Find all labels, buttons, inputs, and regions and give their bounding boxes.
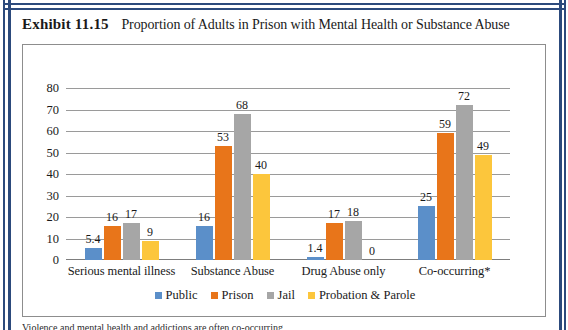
bar-slot: 40: [253, 88, 270, 260]
category-label: Substance Abuse: [177, 264, 288, 279]
y-axis-tick-label: 10: [47, 232, 60, 245]
page-rule-right-inner: [564, 0, 566, 330]
bar-group: 5.416179: [66, 88, 177, 260]
category-label: Drug Abuse only: [288, 264, 399, 279]
bar[interactable]: [215, 146, 232, 260]
bar-group: 16536840: [177, 88, 288, 260]
legend-swatch-icon: [308, 292, 315, 299]
legend-swatch-icon: [267, 292, 274, 299]
legend-label: Public: [166, 288, 198, 303]
category-label: Serious mental illness: [66, 264, 177, 279]
y-axis-tick-label: 60: [47, 125, 60, 138]
bar-value-label: 16: [198, 211, 210, 223]
bar[interactable]: [142, 241, 159, 260]
bar[interactable]: [418, 206, 435, 260]
y-axis-tick-label: 80: [47, 82, 60, 95]
page-rule-top-outer: [3, 3, 566, 5]
chart-plot-area: 80706050403020100 5.416179165368401.4171…: [66, 88, 510, 260]
bar[interactable]: [85, 248, 102, 260]
bar[interactable]: [475, 155, 492, 260]
bar[interactable]: [196, 226, 213, 260]
y-axis-tick-label: 30: [47, 189, 60, 202]
y-axis-tick-label: 40: [47, 168, 60, 181]
bar-value-label: 17: [125, 208, 137, 220]
chart-legend: PublicPrisonJailProbation & Parole: [23, 288, 547, 303]
bar-value-label: 25: [420, 191, 432, 203]
bar-slot: 68: [234, 88, 251, 260]
bar[interactable]: [326, 223, 343, 260]
bar-value-label: 59: [439, 118, 451, 130]
bar[interactable]: [456, 105, 473, 260]
y-axis-tick-label: 50: [47, 146, 60, 159]
bar-slot: 25: [418, 88, 435, 260]
legend-item[interactable]: Jail: [267, 288, 295, 303]
exhibit-footnote: Violence and mental health and addiction…: [22, 322, 283, 330]
page-rule-right-outer: [559, 0, 562, 330]
chart-container: 80706050403020100 5.416179165368401.4171…: [22, 44, 546, 317]
bar-slot: 49: [475, 88, 492, 260]
bar-value-label: 68: [236, 99, 248, 111]
y-axis-tick-label: 0: [53, 254, 59, 267]
bar-slot: 17: [326, 88, 343, 260]
legend-item[interactable]: Probation & Parole: [308, 288, 416, 303]
bar[interactable]: [104, 226, 121, 260]
bar-value-label: 17: [328, 208, 340, 220]
legend-item[interactable]: Prison: [211, 288, 254, 303]
chart-category-labels: Serious mental illnessSubstance AbuseDru…: [66, 264, 510, 279]
legend-label: Probation & Parole: [319, 288, 416, 303]
bar-value-label: 9: [147, 226, 153, 238]
bar-value-label: 72: [458, 90, 470, 102]
chart-plot-wrapper: 80706050403020100 5.416179165368401.4171…: [23, 45, 547, 318]
bar[interactable]: [307, 257, 324, 260]
y-axis-tick-label: 70: [47, 103, 60, 116]
bar-value-label: 18: [347, 206, 359, 218]
bar-slot: 16: [196, 88, 213, 260]
bar-slot: 16: [104, 88, 121, 260]
bar-slot: 9: [142, 88, 159, 260]
page-rule-left-outer: [3, 0, 5, 330]
exhibit-caption: Proportion of Adults in Prison with Ment…: [121, 17, 509, 32]
bar-slot: 72: [456, 88, 473, 260]
exhibit-number: Exhibit 11.15: [22, 16, 109, 32]
bar[interactable]: [234, 114, 251, 260]
bar-value-label: 0: [369, 245, 375, 257]
bar-slot: 5.4: [85, 88, 102, 260]
bar-value-label: 49: [477, 140, 489, 152]
y-axis-tick-label: 20: [47, 211, 60, 224]
legend-swatch-icon: [155, 292, 162, 299]
bar-group: 1.417180: [288, 88, 399, 260]
page-rule-left-inner: [8, 0, 11, 330]
legend-label: Prison: [222, 288, 254, 303]
bar-value-label: 40: [255, 159, 267, 171]
bar-value-label: 53: [217, 131, 229, 143]
bar-slot: 17: [123, 88, 140, 260]
bar-value-label: 16: [106, 211, 118, 223]
bar-slot: 18: [345, 88, 362, 260]
exhibit-heading: Exhibit 11.15 Proportion of Adults in Pr…: [22, 16, 510, 33]
category-label: Co-occurring*: [399, 264, 510, 279]
bar-group: 25597249: [399, 88, 510, 260]
legend-item[interactable]: Public: [155, 288, 198, 303]
chart-bar-groups: 5.416179165368401.41718025597249: [66, 88, 510, 260]
bar[interactable]: [437, 133, 454, 260]
bar[interactable]: [345, 221, 362, 260]
bar-value-label: 1.4: [308, 242, 323, 254]
bar-slot: 1.4: [307, 88, 324, 260]
legend-label: Jail: [278, 288, 295, 303]
bar-value-label: 5.4: [86, 233, 101, 245]
bar-slot: 0: [364, 88, 381, 260]
bar-slot: 53: [215, 88, 232, 260]
legend-swatch-icon: [211, 292, 218, 299]
bar[interactable]: [123, 223, 140, 260]
page-rule-top-inner: [3, 8, 566, 10]
bar[interactable]: [253, 174, 270, 260]
bar-slot: 59: [437, 88, 454, 260]
